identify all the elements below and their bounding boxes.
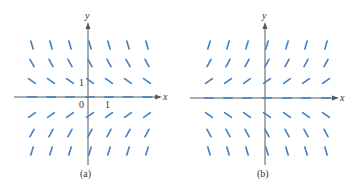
slope-segment	[126, 59, 130, 66]
slope-segment	[226, 129, 230, 136]
slope-segment	[89, 41, 91, 49]
y-axis-label: y	[84, 10, 90, 21]
slope-segment	[246, 41, 248, 49]
slope-segment	[266, 147, 268, 155]
slope-segment	[325, 147, 327, 155]
slope-segment	[225, 79, 232, 84]
slope-segment	[144, 113, 151, 118]
slope-segment	[50, 147, 52, 155]
slope-segment	[225, 113, 232, 118]
slope-segment	[108, 147, 110, 155]
slope-segment	[68, 59, 72, 66]
slope-segment	[244, 79, 251, 84]
slope-segment	[208, 147, 210, 155]
slope-segment	[145, 59, 149, 66]
slope-segment	[88, 59, 92, 66]
slope-segment	[144, 79, 151, 84]
panel-caption: (a)	[80, 168, 91, 180]
slope-segment	[108, 41, 110, 49]
slope-segment	[286, 147, 288, 155]
slope-segment	[286, 41, 288, 49]
slope-segment	[303, 79, 310, 84]
slope-segment	[106, 113, 113, 118]
panel-caption: (b)	[257, 168, 269, 180]
y-axis-arrow-icon	[263, 22, 268, 29]
slope-segment	[29, 113, 36, 118]
slope-segment	[145, 129, 149, 136]
slope-segment	[323, 113, 330, 118]
slope-segment	[29, 79, 36, 84]
slope-segment	[265, 59, 269, 66]
slope-field-figure: x y 1 0 1 (a) x y (b)	[0, 0, 355, 193]
slope-segment	[107, 129, 111, 136]
slope-segment	[284, 79, 291, 84]
slope-segment	[207, 129, 211, 136]
slope-segment	[265, 129, 269, 136]
slope-segment	[323, 79, 330, 84]
panel-a: x y 1 0 1 (a)	[14, 10, 168, 180]
slope-segment	[226, 59, 230, 66]
slope-segment	[31, 147, 33, 155]
y-tick-label: 1	[79, 77, 84, 88]
slope-segment	[305, 41, 307, 49]
x-axis-arrow-icon	[155, 95, 162, 100]
slope-segment	[106, 79, 113, 84]
slope-segment	[127, 147, 129, 155]
slope-segment	[206, 79, 213, 84]
slope-segment	[285, 129, 289, 136]
slope-segment	[126, 129, 130, 136]
y-axis-label: y	[261, 10, 267, 21]
slope-segment	[30, 59, 34, 66]
slope-segment	[208, 41, 210, 49]
slope-segment	[304, 129, 308, 136]
slope-segment	[49, 59, 53, 66]
slope-segment	[207, 59, 211, 66]
slope-segment	[125, 113, 132, 118]
x-axis-arrow-icon	[332, 96, 339, 101]
slope-segment	[324, 129, 328, 136]
panel-b: x y (b)	[190, 10, 345, 180]
slope-segment	[69, 41, 71, 49]
slope-segment	[49, 129, 53, 136]
slope-segment	[246, 147, 248, 155]
slope-segment	[303, 113, 310, 118]
slope-segment	[48, 79, 55, 84]
slope-segment	[245, 59, 249, 66]
slope-segment	[67, 113, 74, 118]
slope-segment	[69, 147, 71, 155]
slope-segment	[107, 59, 111, 66]
slope-segments	[28, 41, 151, 155]
slope-segment	[305, 147, 307, 155]
slope-segment	[325, 41, 327, 49]
slope-segment	[48, 113, 55, 118]
slope-segment	[127, 41, 129, 49]
slope-segment	[266, 41, 268, 49]
x-axis-label: x	[339, 92, 345, 103]
slope-segment	[324, 59, 328, 66]
slope-segment	[68, 129, 72, 136]
slope-segment	[304, 59, 308, 66]
slope-segment	[67, 79, 74, 84]
slope-segment	[30, 129, 34, 136]
origin-label: 0	[79, 99, 84, 110]
x-axis-label: x	[162, 91, 168, 102]
slope-segment	[50, 41, 52, 49]
slope-segment	[244, 113, 251, 118]
slope-segment	[227, 41, 229, 49]
slope-segment	[206, 113, 213, 118]
y-axis-arrow-icon	[86, 22, 91, 29]
slope-segment	[227, 147, 229, 155]
x-tick-label: 1	[105, 99, 110, 110]
slope-segment	[245, 129, 249, 136]
slope-segment	[284, 113, 291, 118]
slope-segment	[31, 41, 33, 49]
slope-segment	[146, 147, 148, 155]
slope-segment	[146, 41, 148, 49]
slope-segment	[285, 59, 289, 66]
slope-segment	[89, 147, 91, 155]
slope-segment	[88, 129, 92, 136]
slope-segment	[125, 79, 132, 84]
